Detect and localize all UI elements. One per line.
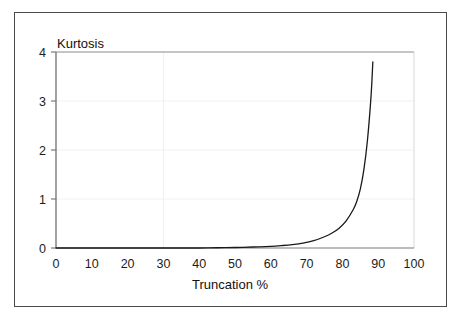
x-tick-label-90: 90 — [371, 257, 385, 271]
x-tick-label-100: 100 — [404, 257, 425, 271]
x-tick-label-80: 80 — [335, 257, 349, 271]
y-tick-label-2: 2 — [39, 144, 46, 158]
x-tick-label-10: 10 — [85, 257, 99, 271]
x-tick-label-70: 70 — [300, 257, 314, 271]
y-tick-label-0: 0 — [39, 242, 46, 256]
y-axis-ticks — [51, 52, 56, 248]
y-axis-title: Kurtosis — [57, 36, 104, 51]
x-tick-label-20: 20 — [121, 257, 135, 271]
chart-figure: 4 3 2 1 0 0 10 20 30 40 50 60 70 80 90 1… — [0, 0, 462, 319]
x-tick-label-40: 40 — [192, 257, 206, 271]
x-tick-label-50: 50 — [228, 257, 242, 271]
x-tick-label-30: 30 — [156, 257, 170, 271]
y-tick-label-4: 4 — [39, 46, 46, 60]
kurtosis-line-chart: 4 3 2 1 0 0 10 20 30 40 50 60 70 80 90 1… — [0, 0, 462, 319]
y-tick-label-1: 1 — [39, 193, 46, 207]
x-tick-label-0: 0 — [53, 257, 60, 271]
y-tick-label-3: 3 — [39, 95, 46, 109]
x-tick-label-60: 60 — [264, 257, 278, 271]
x-axis-title: Truncation % — [192, 277, 269, 292]
